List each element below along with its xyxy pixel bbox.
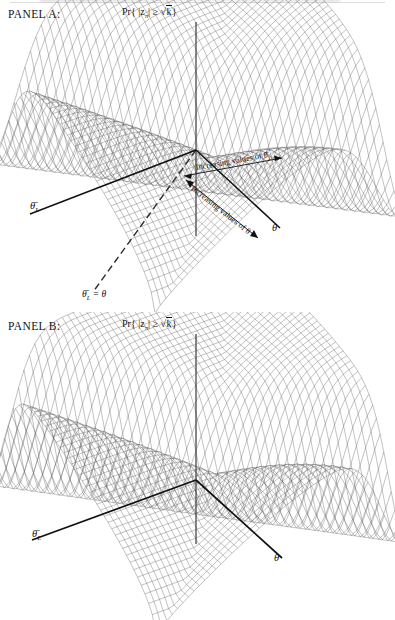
theta-glyph: θ <box>274 552 279 563</box>
panel-b-theta-axis <box>196 480 282 558</box>
panel-b: PANEL B: Pr{ |zπ| ≥ √k} θ̄L θ <box>0 312 395 620</box>
panel-b-theta-label: θ <box>274 552 279 563</box>
panel-a-arrowhead-theta-far <box>250 230 258 238</box>
panel-a-theta-bar-L-axis <box>30 150 196 214</box>
panel-a-diagonal-label: θ̄L = θ <box>82 289 106 301</box>
theta-glyph: θ <box>272 222 277 233</box>
panel-a-theta-bar-L-label: θ̄L <box>30 200 39 214</box>
panel-a-diagonal-reference-line <box>93 150 196 292</box>
theta-bar-subscript: L <box>35 206 39 214</box>
panel-a: PANEL A: Pr{ |zπ| ≥ √k} <box>0 0 395 312</box>
panel-a-surface-plot <box>0 0 395 312</box>
theta-bar-subscript: L <box>37 534 41 542</box>
diagonal-equals-theta: = θ <box>90 289 106 299</box>
panel-a-mesh <box>0 0 395 313</box>
panel-b-surface-plot <box>0 312 395 620</box>
figure-root: PANEL A: Pr{ |zπ| ≥ √k} <box>0 0 395 620</box>
panel-b-theta-bar-L-label: θ̄L <box>32 528 41 542</box>
panel-a-theta-label: θ <box>272 222 277 233</box>
